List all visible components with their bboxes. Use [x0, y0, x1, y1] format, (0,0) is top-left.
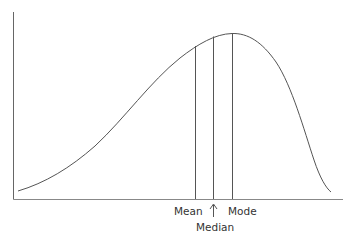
distribution-curve: [18, 33, 331, 192]
mean-label: Mean: [174, 205, 203, 217]
median-label: Median: [196, 221, 234, 233]
mode-label: Mode: [228, 205, 257, 217]
